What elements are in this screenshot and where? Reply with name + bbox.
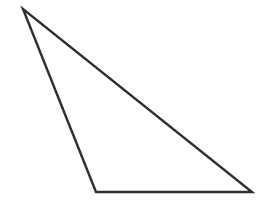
triangle-drawing xyxy=(0,0,265,208)
triangle-shape xyxy=(23,9,252,192)
figure-canvas xyxy=(0,0,265,208)
